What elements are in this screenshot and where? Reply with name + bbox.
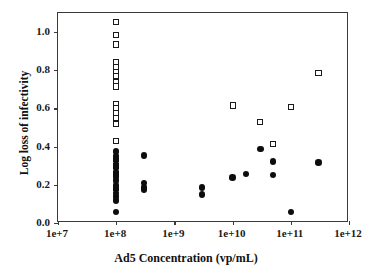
x-axis-tick-labels: 1e+71e+81e+91e+101e+111e+12 (0, 227, 372, 243)
data-point-filled-circle (141, 152, 147, 158)
x-axis-tick (291, 221, 292, 225)
y-axis-tick (54, 185, 58, 186)
scatter-chart-figure: Log loss of infectivity 1.00.80.60.40.20… (0, 0, 372, 277)
y-axis-tick-label: 0.6 (36, 101, 50, 113)
x-axis-tick-label: 1e+10 (218, 227, 246, 239)
y-axis-tick (54, 70, 58, 71)
data-point-filled-circle (229, 174, 235, 180)
y-axis-tick-labels: 1.00.80.60.40.20.0 (0, 12, 50, 222)
data-point-filled-circle (113, 197, 119, 203)
x-axis-tick (174, 221, 175, 225)
y-axis-tick-label: 0.2 (36, 178, 50, 190)
x-axis-title: Ad5 Concentration (vp/mL) (0, 251, 372, 266)
data-point-filled-circle (243, 171, 249, 177)
data-point-filled-circle (141, 186, 147, 192)
y-axis-tick (54, 32, 58, 33)
data-point-filled-circle (257, 146, 263, 152)
data-point-open-square (113, 32, 119, 38)
x-axis-tick-label: 1e+11 (276, 227, 303, 239)
data-point-open-square (113, 121, 119, 127)
data-point-open-square (113, 83, 119, 89)
plot-data-area (58, 13, 347, 221)
plot-frame (57, 12, 348, 222)
x-axis-tick (58, 221, 59, 225)
x-axis-tick (233, 221, 234, 225)
x-axis-tick-label: 1e+12 (334, 227, 362, 239)
data-point-open-square (288, 104, 294, 110)
data-point-open-square (257, 119, 263, 125)
data-point-filled-circle (270, 172, 276, 178)
data-point-open-square (230, 102, 236, 108)
x-axis-tick-label: 1e+8 (104, 227, 126, 239)
y-axis-tick (54, 147, 58, 148)
data-point-open-square (113, 19, 119, 25)
data-point-open-square (113, 41, 119, 47)
x-axis-tick (349, 221, 350, 225)
data-point-filled-circle (113, 209, 119, 215)
x-axis-tick (116, 221, 117, 225)
y-axis-tick-label: 0.4 (36, 140, 50, 152)
x-axis-tick-label: 1e+9 (162, 227, 184, 239)
data-point-filled-circle (288, 209, 294, 215)
data-point-filled-circle (199, 191, 205, 197)
y-axis-tick (54, 108, 58, 109)
data-point-open-square (270, 141, 276, 147)
data-point-open-square (315, 70, 321, 76)
y-axis-tick-label: 1.0 (36, 25, 50, 37)
data-point-filled-circle (199, 184, 205, 190)
x-axis-tick-label: 1e+7 (46, 227, 68, 239)
data-point-filled-circle (315, 159, 321, 165)
y-axis-tick-label: 0.8 (36, 63, 50, 75)
data-point-filled-circle (270, 158, 276, 164)
data-point-open-square (113, 138, 119, 144)
